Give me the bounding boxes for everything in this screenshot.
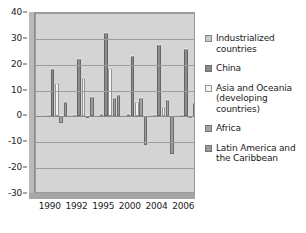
- y-tick-mark: [23, 63, 27, 64]
- bar: [108, 68, 111, 116]
- y-tick-label: 0: [16, 111, 22, 120]
- bar: [144, 116, 147, 145]
- y-tick-label: 20: [11, 59, 22, 68]
- y-tick-label: 40: [11, 8, 22, 17]
- gridline: [36, 65, 194, 66]
- plot-panel: [35, 12, 195, 193]
- bar: [104, 33, 107, 117]
- plot-area: [29, 12, 195, 199]
- legend-swatch-icon: [205, 35, 212, 42]
- bar-group: [100, 13, 121, 193]
- legend-item[interactable]: Latin America and the Caribbean: [205, 143, 304, 164]
- y-tick-label: 10: [11, 85, 22, 94]
- bar: [193, 103, 195, 116]
- y-tick-label: -20: [8, 163, 22, 172]
- legend-swatch-icon: [205, 125, 212, 132]
- y-tick-mark: [23, 193, 27, 194]
- bar-groups: [42, 13, 195, 193]
- gridline: [36, 142, 194, 143]
- bar: [51, 69, 54, 116]
- legend-item-label: Latin America and the Caribbean: [216, 143, 296, 164]
- bar: [139, 98, 142, 116]
- x-tick-label: 1992: [65, 201, 87, 211]
- bar: [162, 107, 165, 117]
- x-tick-label: 1990: [39, 201, 61, 211]
- bar-group: [127, 13, 148, 193]
- legend-item-label: China: [216, 63, 241, 74]
- y-tick-mark: [23, 12, 27, 13]
- legend-swatch-icon: [205, 145, 212, 152]
- legend-item[interactable]: Industrialized countries: [205, 33, 304, 54]
- x-tick-label: 2000: [119, 201, 141, 211]
- y-tick-label: -10: [8, 137, 22, 146]
- y-tick-mark: [23, 141, 27, 142]
- legend-swatch-icon: [205, 65, 212, 72]
- zero-line: [36, 116, 194, 117]
- legend-item[interactable]: Asia and Oceania (developing countries): [205, 83, 304, 115]
- chart-legend: Industrialized countriesChinaAsia and Oc…: [205, 33, 304, 173]
- y-tick-label: -30: [8, 189, 22, 198]
- x-tick-label: 2006: [172, 201, 194, 211]
- bar-chart: 403020100-10-20-30 199019921995200020042…: [0, 0, 306, 233]
- bar: [90, 97, 93, 116]
- x-axis: 199019921995200020042006: [29, 201, 201, 217]
- bar: [55, 83, 58, 117]
- y-tick-mark: [23, 115, 27, 116]
- gridline: [36, 91, 194, 92]
- legend-item[interactable]: China: [205, 63, 304, 74]
- x-tick-label: 2004: [145, 201, 167, 211]
- bar: [113, 98, 116, 117]
- legend-item-label: Asia and Oceania (developing countries): [216, 83, 292, 115]
- bar-group: [180, 13, 195, 193]
- y-axis: 403020100-10-20-30: [0, 12, 27, 194]
- bar-group: [153, 13, 174, 193]
- y-tick-mark: [23, 37, 27, 38]
- bar: [184, 49, 187, 116]
- bar: [117, 95, 120, 116]
- x-tick-label: 1995: [92, 201, 114, 211]
- legend-swatch-icon: [205, 85, 212, 92]
- gridline: [36, 13, 194, 14]
- bar-group: [47, 13, 68, 193]
- y-tick-mark: [23, 89, 27, 90]
- bar: [166, 100, 169, 116]
- legend-item-label: Industrialized countries: [216, 33, 275, 54]
- bar: [82, 78, 85, 116]
- plot-floor: [29, 193, 195, 199]
- bar: [170, 116, 173, 154]
- bar-group: [73, 13, 94, 193]
- y-tick-label: 30: [11, 33, 22, 42]
- bar: [135, 102, 138, 116]
- legend-item[interactable]: Africa: [205, 123, 304, 134]
- legend-item-label: Africa: [216, 123, 241, 134]
- gridline: [36, 168, 194, 169]
- gridline: [36, 39, 194, 40]
- bar: [77, 59, 80, 117]
- bar: [64, 102, 67, 116]
- bar: [157, 45, 160, 117]
- y-tick-mark: [23, 167, 27, 168]
